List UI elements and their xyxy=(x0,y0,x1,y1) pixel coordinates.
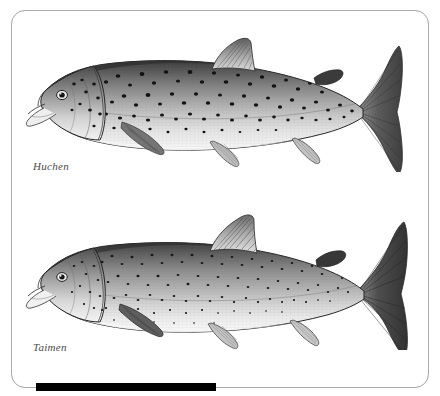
taimen-head xyxy=(26,248,105,322)
taimen-anal-fin xyxy=(290,320,319,346)
huchen-dorsal-fin xyxy=(212,38,255,71)
huchen-anal-fin xyxy=(292,138,320,164)
huchen-caudal-fin xyxy=(358,46,402,172)
taimen-drawing xyxy=(14,200,424,350)
taimen-dorsal-fin xyxy=(210,215,257,253)
fish-illustration-taimen xyxy=(14,200,424,350)
illustration-plate: Huchen xyxy=(0,0,440,396)
fish-illustration-huchen xyxy=(14,22,424,172)
taimen-caudal-fin xyxy=(358,222,407,350)
taimen-adipose-fin xyxy=(316,251,346,267)
bottom-black-bar xyxy=(36,383,216,391)
caption-taimen: Taimen xyxy=(33,341,67,353)
caption-huchen: Huchen xyxy=(33,160,69,172)
huchen-head xyxy=(26,66,105,140)
huchen-adipose-fin xyxy=(314,70,343,85)
huchen-drawing xyxy=(14,22,424,172)
